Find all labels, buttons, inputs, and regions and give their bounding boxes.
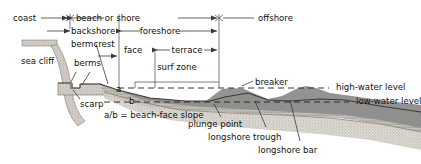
profile-svg: coast beach or shore offshore backshore … bbox=[0, 0, 421, 164]
label-plunge-point: plunge point bbox=[188, 119, 243, 129]
coastal-profile-diagram: coast beach or shore offshore backshore … bbox=[0, 0, 421, 164]
label-beach-or-shore: beach or shore bbox=[76, 13, 140, 23]
label-foreshore: foreshore bbox=[140, 26, 181, 36]
breaker-pointer bbox=[242, 81, 253, 86]
label-backshore: backshore bbox=[71, 26, 115, 36]
label-breaker: breaker bbox=[255, 77, 288, 87]
label-sea-cliff: sea cliff bbox=[21, 56, 55, 66]
surf-zone-bracket bbox=[135, 82, 219, 88]
berms-pointer-left bbox=[71, 72, 76, 82]
label-longshore-bar: longshore bar bbox=[258, 145, 318, 155]
label-bermcrest: bermcrest bbox=[71, 39, 115, 49]
label-scarp: scarp bbox=[80, 99, 103, 109]
label-coast: coast bbox=[13, 13, 37, 23]
label-slope-b: b bbox=[129, 96, 134, 106]
label-low-water-level: low-water level bbox=[356, 96, 421, 106]
cliff-top-surface bbox=[22, 40, 57, 46]
label-berms: berms bbox=[74, 58, 101, 68]
label-longshore-trough: longshore trough bbox=[208, 132, 281, 142]
label-surf-zone: surf zone bbox=[157, 62, 197, 72]
label-offshore: offshore bbox=[258, 13, 293, 23]
scarp-feature bbox=[70, 83, 72, 89]
label-high-water-level: high-water level bbox=[336, 82, 406, 92]
label-terrace: terrace bbox=[172, 45, 203, 55]
berms-pointer-right bbox=[82, 72, 90, 85]
label-face: face bbox=[124, 45, 142, 55]
label-slope-a: a bbox=[116, 84, 121, 94]
